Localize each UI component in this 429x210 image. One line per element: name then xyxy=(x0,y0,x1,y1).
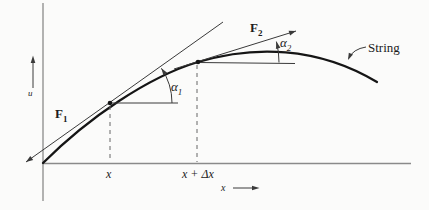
point-at-x xyxy=(108,101,113,106)
f1-symbol: F xyxy=(55,106,63,121)
angle-alpha2-label: α2 xyxy=(280,36,291,49)
u-axis-label: u xyxy=(28,89,33,98)
f2-subscript: 2 xyxy=(258,28,263,38)
point-at-x-plus-dx xyxy=(196,60,201,65)
f1-arrowhead-icon xyxy=(26,156,33,162)
string-curve xyxy=(43,52,377,163)
string-callout-pointer xyxy=(349,47,366,59)
x-tick-label: x xyxy=(106,168,111,180)
f1-subscript: 1 xyxy=(63,114,68,124)
angle-alpha1-label: α1 xyxy=(171,80,182,93)
f2-symbol: F xyxy=(250,20,258,35)
x-direction-arrowhead-icon xyxy=(252,186,260,190)
f2-arrowhead-icon xyxy=(289,31,296,36)
wave-string-figure: u F1 F2 α1 α2 String x x + Δx x xyxy=(0,0,429,210)
x-plus-dx-tick-label: x + Δx xyxy=(182,168,214,180)
alpha2-subscript: 2 xyxy=(287,43,292,53)
horizontal-reference-at-x-plus-dx xyxy=(198,63,295,64)
diagram-canvas xyxy=(0,0,429,210)
force-f1-label: F1 xyxy=(55,107,67,120)
string-annotation-label: String xyxy=(368,41,400,54)
tangent-line-at-x xyxy=(26,22,223,162)
x-axis-label: x xyxy=(221,183,225,193)
u-direction-arrowhead-icon xyxy=(31,56,36,64)
force-f2-label: F2 xyxy=(250,21,262,34)
alpha1-subscript: 1 xyxy=(178,87,183,97)
alpha2-symbol: α xyxy=(280,35,287,50)
alpha1-symbol: α xyxy=(171,79,178,94)
